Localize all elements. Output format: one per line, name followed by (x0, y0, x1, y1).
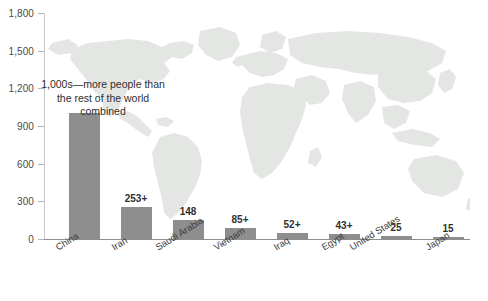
bar-slot-japan: 15 (425, 13, 471, 239)
bar-united-states[interactable] (381, 236, 412, 239)
y-tick-900 (38, 126, 44, 127)
y-tick-label-600: 600 (17, 160, 34, 170)
bar-slot-vietnam: 85+ (217, 13, 263, 239)
bar-value-vietnam: 85+ (232, 215, 249, 225)
bar-slot-iraq: 52+ (269, 13, 315, 239)
bar-value-iran: 253+ (125, 194, 148, 204)
bar-iran[interactable] (121, 207, 152, 239)
bar-china[interactable] (69, 113, 100, 239)
y-tick-1800 (38, 13, 44, 14)
bar-saudi-arabia[interactable] (173, 220, 204, 239)
y-tick-label-0: 0 (28, 235, 34, 245)
bar-value-united-states: 25 (390, 223, 401, 233)
bars-layer: 253+ 148 85+ 52+ 43+ 25 15 (45, 13, 470, 239)
bar-iraq[interactable] (277, 233, 308, 240)
bar-slot-china (61, 13, 107, 239)
y-tick-1500 (38, 51, 44, 52)
bar-slot-united-states: 25 (373, 13, 419, 239)
y-tick-300 (38, 201, 44, 202)
bar-slot-egypt: 43+ (321, 13, 367, 239)
y-tick-600 (38, 164, 44, 165)
annotation-china: 1,000s—more people than the rest of the … (40, 78, 166, 119)
x-axis-line (44, 239, 470, 240)
bar-value-iraq: 52+ (284, 220, 301, 230)
bar-slot-iran: 253+ (113, 13, 159, 239)
y-tick-label-1200: 1,200 (8, 84, 34, 94)
bar-egypt[interactable] (329, 234, 360, 239)
y-tick-label-1500: 1,500 (8, 47, 34, 57)
y-tick-label-1800: 1,800 (8, 9, 34, 19)
bar-slot-saudi-arabia: 148 (165, 13, 211, 239)
bar-japan[interactable] (433, 237, 464, 239)
bar-value-japan: 15 (442, 224, 453, 234)
bar-chart: 1,800 1,500 1,200 900 600 300 0 253+ 148… (0, 0, 488, 301)
bar-value-saudi-arabia: 148 (180, 207, 197, 217)
y-tick-label-300: 300 (17, 197, 34, 207)
bar-vietnam[interactable] (225, 228, 256, 239)
y-tick-label-900: 900 (17, 122, 34, 132)
bar-value-egypt: 43+ (336, 221, 353, 231)
y-tick-0 (38, 239, 44, 240)
